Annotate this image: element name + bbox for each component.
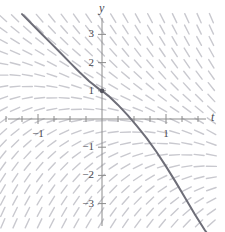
slope-dash [36,38,44,44]
slope-dash [146,95,154,101]
slope-dash [62,219,67,228]
slope-dash [74,14,80,22]
slope-dash [121,164,130,169]
slope-dash [47,86,57,88]
slope-dash [121,96,130,100]
slope-dash [108,132,118,133]
slope-dash [133,153,143,156]
y-tick-label: −2 [68,169,94,180]
slope-dash [73,185,79,193]
slope-dash [110,49,117,56]
slope-dash [109,164,117,170]
slope-dash [98,26,104,34]
slope-dash [158,107,167,112]
slope-dash [1,196,6,205]
slope-dash [170,155,180,156]
slope-dash [23,108,32,111]
slope-dash [35,86,45,87]
slope-dash [123,219,129,227]
slope-dash [61,185,67,193]
slope-dash [183,209,191,216]
slope-dash [49,185,55,193]
slope-dash [86,208,91,216]
slope-dash [121,142,131,144]
slope-dash [71,97,81,99]
slope-dash [183,220,190,227]
slope-dash [96,109,106,110]
slope-dash [24,26,31,33]
slope-dash [12,174,18,182]
t-axis-label: t [211,111,214,123]
slope-dash [170,143,180,144]
slope-dash [0,86,8,88]
slope-dash [171,83,178,90]
slope-dash [121,153,130,157]
slope-dash [147,60,153,68]
slope-dash [96,131,106,133]
slope-dash [59,119,69,122]
x-tick-label: −1 [29,128,47,139]
slope-dash [24,151,31,158]
slope-dash [0,185,5,194]
slope-dash [62,208,67,217]
slope-dash [36,14,43,22]
slope-dash [111,14,116,23]
slope-dash [123,37,129,45]
slope-dash [209,71,215,79]
slope-dash [182,187,191,192]
slope-dash [61,174,67,182]
slope-dash [185,25,190,34]
slope-dash [110,197,116,205]
slope-dash [48,141,56,147]
slope-dash [97,152,106,157]
slope-dash [159,71,166,78]
slope-dash [135,48,141,56]
slope-dash [183,95,190,102]
slope-dash [12,151,19,159]
slope-dash [35,97,45,98]
slope-dash [72,130,81,134]
slope-dash [61,26,68,34]
slope-dash [206,154,216,156]
slope-dash [1,207,5,216]
slope-dash [195,198,204,203]
slope-dash [196,94,203,101]
slope-dash [37,219,41,228]
slope-dash [209,37,214,46]
slope-dash [146,186,154,192]
slope-dash [0,140,6,147]
slope-dash [60,130,69,134]
slope-dash [134,186,142,192]
slope-dash [158,176,167,180]
slope-dash [146,107,155,111]
slope-dash [22,74,32,76]
slope-dash [11,107,20,111]
slope-dash [182,176,191,179]
initial-condition-dot [100,88,105,93]
slope-dash [35,62,44,66]
slope-dash [147,72,154,79]
slope-dash [209,60,214,69]
slope-dash [0,63,8,65]
slope-dash [49,14,55,22]
slope-dash [84,109,94,110]
slope-dash [207,198,216,203]
slope-dash [133,143,143,144]
slope-dash [159,197,167,204]
slope-dash [48,130,57,135]
slope-dash [170,187,179,192]
slope-dash [122,197,129,204]
slope-dash [35,108,45,111]
slope-dash [1,219,5,228]
slope-dash [147,219,153,227]
slope-dash [135,25,140,34]
slope-dash [85,152,93,157]
slope-dash [184,71,190,79]
slope-dash [195,187,204,191]
slope-dash [108,108,118,110]
slope-dash [24,174,30,182]
slope-dash [207,130,216,135]
slope-dash [85,185,91,193]
slope-dash [122,175,130,181]
slope-dash [49,208,54,217]
